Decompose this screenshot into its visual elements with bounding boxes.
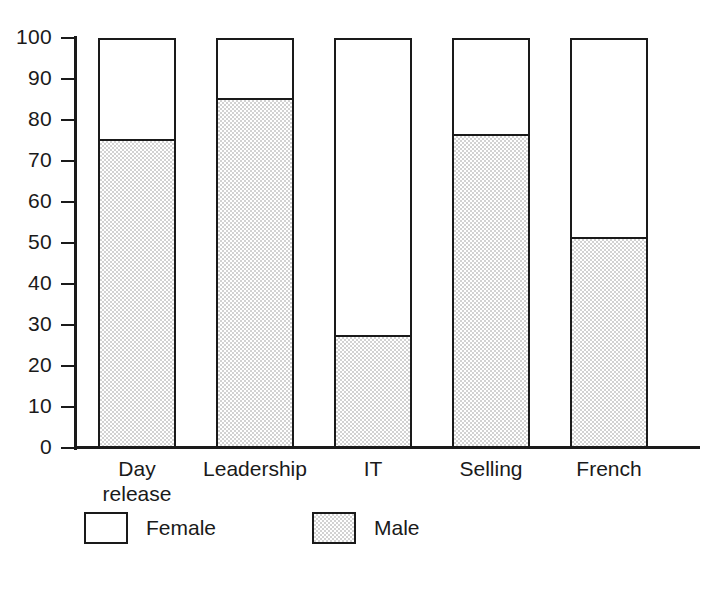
- y-axis-tick-mark: [61, 324, 76, 326]
- y-axis-tick-label: 50: [28, 230, 52, 254]
- y-axis-tick-mark: [61, 242, 76, 244]
- bar-segment-female[interactable]: [452, 38, 530, 448]
- y-axis-tick-label: 20: [28, 353, 52, 377]
- bar-group[interactable]: [216, 38, 294, 448]
- y-axis-tick-mark: [61, 119, 76, 121]
- bar-group[interactable]: [452, 38, 530, 448]
- y-axis-tick-label: 80: [28, 107, 52, 131]
- y-axis-tick-mark: [61, 447, 76, 449]
- y-axis-tick-mark: [61, 201, 76, 203]
- bar-segment-female[interactable]: [334, 38, 412, 448]
- bar-group[interactable]: [98, 38, 176, 448]
- bar-group[interactable]: [570, 38, 648, 448]
- legend-item-label: Male: [374, 516, 420, 540]
- y-axis-tick-mark: [61, 406, 76, 408]
- bar-segment-male[interactable]: [572, 237, 646, 446]
- bar-group[interactable]: [334, 38, 412, 448]
- y-axis-tick-mark: [61, 365, 76, 367]
- legend-item-label: Female: [146, 516, 216, 540]
- y-axis-tick-label: 0: [40, 435, 52, 459]
- y-axis-tick-label: 40: [28, 271, 52, 295]
- bar-segment-female[interactable]: [216, 38, 294, 448]
- bar-segment-male[interactable]: [454, 134, 528, 446]
- y-axis-tick-label: 70: [28, 148, 52, 172]
- y-axis-tick-label: 10: [28, 394, 52, 418]
- x-axis-category-label-line: French: [534, 456, 684, 481]
- legend-item[interactable]: Male: [312, 512, 420, 544]
- y-axis-tick-mark: [61, 37, 76, 39]
- bar-segment-female[interactable]: [98, 38, 176, 448]
- x-axis-category-label: French: [534, 456, 684, 481]
- y-axis-tick-label: 30: [28, 312, 52, 336]
- bar-segment-male[interactable]: [100, 139, 174, 447]
- legend-item[interactable]: Female: [84, 512, 216, 544]
- y-axis-tick-label: 60: [28, 189, 52, 213]
- stacked-bar-chart: 1009080706050403020100 DayreleaseLeaders…: [0, 0, 725, 589]
- bar-segment-male[interactable]: [218, 98, 292, 447]
- y-axis-tick-mark: [61, 283, 76, 285]
- y-axis-tick-label: 90: [28, 66, 52, 90]
- bar-segment-male[interactable]: [336, 335, 410, 446]
- y-axis-tick-label: 100: [16, 25, 52, 49]
- y-axis-tick-mark: [61, 78, 76, 80]
- legend-swatch-male-icon: [312, 512, 356, 544]
- y-axis-tick-mark: [61, 160, 76, 162]
- legend-swatch-female-icon: [84, 512, 128, 544]
- plot-area: [76, 38, 700, 448]
- bar-segment-female[interactable]: [570, 38, 648, 448]
- chart-legend: FemaleMale: [84, 512, 420, 544]
- x-axis-category-label-line: release: [62, 481, 212, 506]
